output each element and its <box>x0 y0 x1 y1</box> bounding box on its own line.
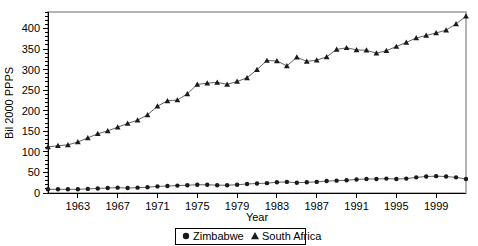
data-point-marker <box>443 27 449 32</box>
x-axis-tick-label: 1991 <box>344 200 368 212</box>
data-point-marker <box>424 174 428 178</box>
data-point-marker <box>135 185 139 189</box>
chart-container: 050100150200250300350400 196319671971197… <box>0 0 478 246</box>
data-point-marker <box>324 54 330 59</box>
data-series-group <box>45 13 469 191</box>
data-point-marker <box>56 187 60 191</box>
legend-item-label: South Africa <box>262 230 322 242</box>
y-axis-title-label: Bil 2000 PPPS <box>3 67 15 139</box>
data-point-marker <box>265 181 269 185</box>
x-axis-tick-label: 1967 <box>105 200 129 212</box>
x-axis-tick-label: 1975 <box>185 200 209 212</box>
data-point-marker <box>295 181 299 185</box>
y-axis-tick-label: 350 <box>22 43 40 55</box>
x-axis-tick-label: 1987 <box>304 200 328 212</box>
data-point-marker <box>195 183 199 187</box>
data-point-marker <box>105 128 111 133</box>
data-point-marker <box>86 187 90 191</box>
data-point-marker <box>245 182 249 186</box>
data-point-marker <box>463 13 469 18</box>
data-point-marker <box>145 185 149 189</box>
data-point-marker <box>344 178 348 182</box>
data-point-marker <box>234 79 240 84</box>
series-south-africa <box>45 13 469 149</box>
x-axis-tick-label: 1995 <box>384 200 408 212</box>
data-point-marker <box>294 54 300 59</box>
y-axis-tick-label: 0 <box>34 187 40 199</box>
data-point-marker <box>394 177 398 181</box>
data-point-marker <box>454 175 458 179</box>
circle-marker-icon <box>183 233 189 239</box>
data-point-marker <box>125 186 129 190</box>
y-axis-tick-label: 200 <box>22 105 40 117</box>
data-point-marker <box>364 177 368 181</box>
chart-legend: ZimbabweSouth Africa <box>175 228 322 244</box>
y-axis: 050100150200250300350400 <box>22 12 48 199</box>
data-point-marker <box>344 45 350 50</box>
y-axis-tick-label: 100 <box>22 146 40 158</box>
x-axis-tick-label: 1999 <box>424 200 448 212</box>
data-point-marker <box>205 183 209 187</box>
data-point-marker <box>165 184 169 188</box>
data-point-marker <box>155 184 159 188</box>
y-axis-title: Bil 2000 PPPS <box>3 67 15 139</box>
x-axis-tick-label: 1983 <box>265 200 289 212</box>
line-chart: 050100150200250300350400 196319671971197… <box>0 0 478 246</box>
data-point-marker <box>324 179 328 183</box>
data-point-marker <box>214 79 220 84</box>
data-point-marker <box>185 183 189 187</box>
data-point-marker <box>374 177 378 181</box>
axis-lines <box>48 12 466 193</box>
series-line <box>48 16 466 147</box>
data-point-marker <box>85 135 91 140</box>
data-point-marker <box>155 103 161 108</box>
plot-frame <box>48 12 466 193</box>
data-point-marker <box>404 176 408 180</box>
data-point-marker <box>225 183 229 187</box>
data-point-marker <box>135 117 141 122</box>
data-point-marker <box>46 187 50 191</box>
y-axis-tick-label: 150 <box>22 125 40 137</box>
data-point-marker <box>384 176 388 180</box>
data-point-marker <box>354 177 358 181</box>
data-point-marker <box>174 97 180 102</box>
y-axis-tick-label: 400 <box>22 22 40 34</box>
data-point-marker <box>434 174 438 178</box>
data-point-marker <box>393 44 399 49</box>
data-point-marker <box>115 124 121 129</box>
x-axis-tick-label: 1963 <box>66 200 90 212</box>
data-point-marker <box>464 177 468 181</box>
data-point-marker <box>383 48 389 53</box>
data-point-marker <box>76 187 80 191</box>
data-point-marker <box>235 183 239 187</box>
y-axis-tick-label: 300 <box>22 64 40 76</box>
data-point-marker <box>275 180 279 184</box>
data-point-marker <box>175 183 179 187</box>
data-point-marker <box>115 185 119 189</box>
data-point-marker <box>315 180 319 184</box>
data-point-marker <box>453 21 459 26</box>
data-point-marker <box>444 174 448 178</box>
data-point-marker <box>106 186 110 190</box>
y-axis-tick-label: 250 <box>22 84 40 96</box>
data-point-marker <box>403 40 409 45</box>
data-point-marker <box>285 180 289 184</box>
data-point-marker <box>334 178 338 182</box>
x-axis: 1963196719711975197919831987199119951999 <box>66 193 449 212</box>
data-point-marker <box>96 186 100 190</box>
series-zimbabwe <box>46 174 468 192</box>
y-axis-tick-label: 50 <box>28 166 40 178</box>
data-point-marker <box>305 180 309 184</box>
data-point-marker <box>255 181 259 185</box>
x-axis-tick-label: 1971 <box>145 200 169 212</box>
data-point-marker <box>66 187 70 191</box>
legend-item-label: Zimbabwe <box>193 230 244 242</box>
data-point-marker <box>75 139 81 144</box>
x-axis-title-label: Year <box>246 211 269 223</box>
data-point-marker <box>414 175 418 179</box>
data-point-marker <box>215 183 219 187</box>
